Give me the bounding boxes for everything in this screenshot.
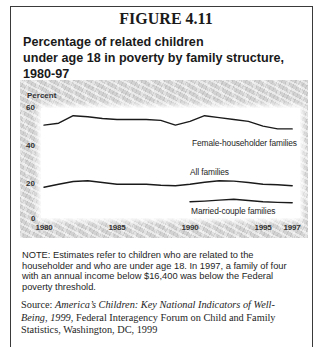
source-line-1: Source: America’s Children: Key National… xyxy=(21,299,276,312)
note-line-2: householder and who are under age 18. In… xyxy=(22,261,287,272)
source-line-3: Statistics, Washington, DC, 1999 xyxy=(21,324,276,337)
source-prefix: Source: xyxy=(21,299,55,310)
female-householder-line xyxy=(44,116,292,129)
source-citation: Source: America’s Children: Key National… xyxy=(21,299,276,337)
label-all-families: All families xyxy=(190,167,229,177)
source-publisher: , Federal Interagency Forum on Child and… xyxy=(71,312,276,323)
married-couple-line xyxy=(190,199,292,203)
note-line-1: NOTE: Estimates refer to children who ar… xyxy=(22,250,287,261)
source-title-part-2: Being, 1999 xyxy=(21,312,71,323)
note-line-3: with an annual income below $16,400 was … xyxy=(22,271,287,282)
note-text: NOTE: Estimates refer to children who ar… xyxy=(22,250,287,292)
source-line-2: Being, 1999, Federal Interagency Forum o… xyxy=(21,312,276,325)
label-female-householder: Female-householder families xyxy=(192,138,297,148)
note-line-4: poverty threshold. xyxy=(22,282,287,293)
source-title-part-1: America’s Children: Key National Indicat… xyxy=(55,299,275,310)
label-married-couple: Married-couple families xyxy=(191,206,275,216)
all-families-line xyxy=(44,181,292,187)
